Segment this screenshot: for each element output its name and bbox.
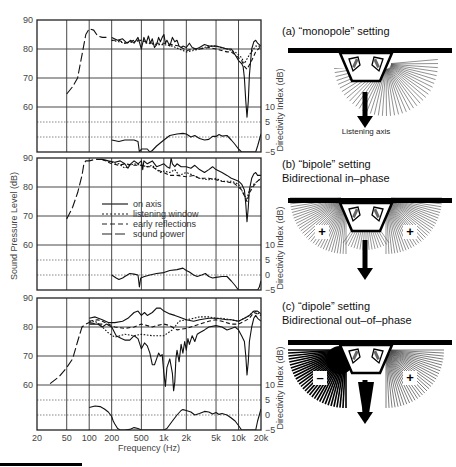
y-axis-label-spl: Sound Pressure Level (dB) <box>9 172 19 280</box>
y-axis-label-di: Directivity Index (dB) <box>275 68 285 151</box>
x-tick-label: 2k <box>182 433 192 443</box>
x-tick-label: 10k <box>231 433 246 443</box>
diagram-b-subtitle: Bidirectional in–phase <box>282 172 390 184</box>
polarity-sign: + <box>406 370 414 385</box>
spl-tick-label: 90 <box>23 153 33 163</box>
spl-tick-label: 60 <box>23 380 33 390</box>
diagram-monopole <box>288 40 452 128</box>
spl-tick-label: 70 <box>23 211 33 221</box>
polarity-sign: + <box>406 224 414 239</box>
di-tick-label: 0 <box>265 410 270 420</box>
figure: 60708090−50510Directivity Index (dB)6070… <box>0 0 456 467</box>
di-tick-label: 0 <box>265 270 270 280</box>
x-tick-label: 500 <box>134 433 149 443</box>
spl-tick-label: 80 <box>23 182 33 192</box>
diagram-a-title: (a) “monopole” setting <box>282 25 390 37</box>
legend-on-axis: on axis <box>133 199 162 209</box>
di-tick-label: −5 <box>265 147 275 157</box>
x-tick-label: 200 <box>104 433 119 443</box>
di-tick-label: 10 <box>265 240 275 250</box>
legend-early-reflections: early reflections <box>133 219 197 229</box>
polarity-sign: – <box>316 370 323 385</box>
di-tick-label: 5 <box>265 395 270 405</box>
x-tick-label: 1k <box>159 433 169 443</box>
y-axis-label-di: Directivity Index (dB) <box>275 206 285 289</box>
spl-tick-label: 70 <box>23 351 33 361</box>
diagram-b-title: (b) “bipole” setting <box>282 158 371 170</box>
spl-tick-label: 90 <box>23 15 33 25</box>
diagram-c-title: (c) “dipole” setting <box>282 300 370 312</box>
diagram-dipole: –+ <box>288 340 452 424</box>
legend-sound-power: sound power <box>133 229 185 239</box>
y-axis-label-di: Directivity Index (dB) <box>275 346 285 429</box>
x-axis-label: Frequency (Hz) <box>118 443 180 453</box>
spl-tick-label: 60 <box>23 102 33 112</box>
spl-tick-label: 80 <box>23 44 33 54</box>
diagram-c-subtitle: Bidirectional out–of–phase <box>282 314 412 326</box>
x-tick-label: 100 <box>82 433 97 443</box>
legend-listening-window: listening window <box>133 209 199 219</box>
x-tick-label: 20 <box>32 433 42 443</box>
x-tick-label: 50 <box>62 433 72 443</box>
di-tick-label: 0 <box>265 132 270 142</box>
diagram-bipole: ++ <box>288 198 452 280</box>
spl-tick-label: 80 <box>23 322 33 332</box>
di-tick-label: 5 <box>265 117 270 127</box>
di-tick-label: 10 <box>265 102 275 112</box>
di-tick-label: 5 <box>265 255 270 265</box>
spl-tick-label: 90 <box>23 293 33 303</box>
spl-tick-label: 60 <box>23 240 33 250</box>
x-tick-label: 20k <box>254 433 269 443</box>
di-tick-label: −5 <box>265 285 275 295</box>
chart-panel-c: 60708090−50510Directivity Index (dB) <box>23 293 285 435</box>
diagram-a-caption: Listening axis <box>342 127 390 136</box>
spl-tick-label: 70 <box>23 73 33 83</box>
polarity-sign: + <box>318 224 326 239</box>
x-tick-label: 5k <box>211 433 221 443</box>
speaker-setting-diagrams: (a) “monopole” setting Listening axis (b… <box>282 25 452 424</box>
chart-panel-a: 60708090−50510Directivity Index (dB) <box>23 15 285 157</box>
scale-bar <box>0 463 82 466</box>
di-tick-label: 10 <box>265 380 275 390</box>
